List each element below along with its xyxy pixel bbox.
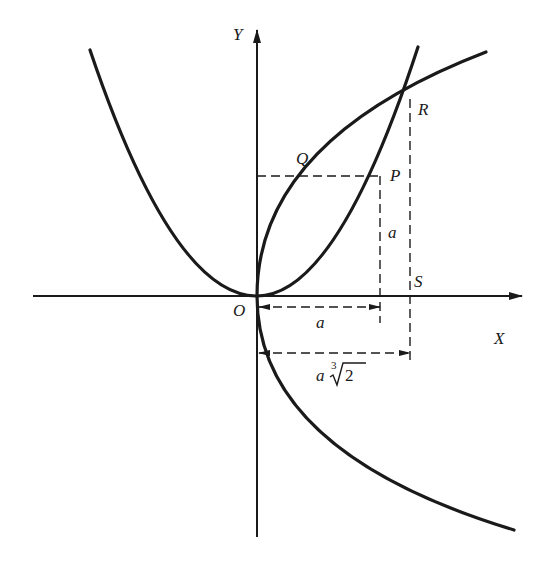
- y-axis-label: Y: [233, 26, 242, 43]
- horizontal-a-label: a: [316, 314, 325, 331]
- parabola-up-curve: [90, 47, 418, 296]
- diagram-canvas: Y X O Q P R S a a a 3 2: [0, 0, 550, 569]
- radicand: 2: [345, 367, 354, 384]
- diagram-svg: [0, 0, 550, 569]
- x-axis-label: X: [494, 330, 504, 347]
- a-cbrt2-coefficient: a: [316, 367, 325, 384]
- point-p-label: P: [390, 167, 400, 184]
- vertical-a-label: a: [388, 224, 397, 241]
- origin-label: O: [233, 302, 245, 319]
- point-r-label: R: [418, 101, 428, 118]
- a-cbrt2-label: a 3 2: [316, 360, 386, 390]
- point-s-label: S: [414, 273, 423, 290]
- parabola-right-curve: [257, 52, 514, 530]
- point-q-label: Q: [296, 150, 308, 167]
